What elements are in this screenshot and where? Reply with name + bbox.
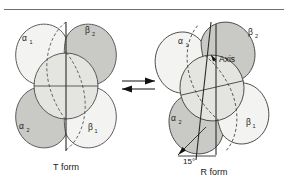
t-form-caption: T form — [53, 162, 79, 172]
r-form-caption: R form — [201, 167, 228, 177]
equilibrium-arrows — [122, 78, 155, 93]
r-alpha2-greek: α — [171, 113, 176, 123]
figure-root: α 1 β 2 α 2 β 1 T form — [0, 0, 288, 181]
forward-arrow-head — [145, 78, 155, 85]
r-beta2-greek: β — [248, 27, 253, 37]
alpha2-subscript: 2 — [27, 127, 30, 133]
axis-label: Axis — [219, 54, 235, 64]
t-form-panel: α 1 β 2 α 2 β 1 T form — [16, 22, 117, 172]
r-alpha1-greek: α — [178, 36, 183, 46]
reverse-arrow-head — [122, 86, 132, 93]
beta2-subscript: 2 — [92, 31, 95, 37]
hemoglobin-diagram: α 1 β 2 α 2 β 1 T form — [0, 0, 288, 181]
alpha1-subscript: 1 — [30, 39, 33, 45]
r-alpha2-subscript: 2 — [179, 119, 182, 125]
beta2-greek: β — [85, 25, 90, 35]
r-beta1-greek: β — [246, 117, 251, 127]
r-form-panel: Axis 15° α 1 β 2 α 2 β — [149, 14, 276, 177]
r-beta2-subscript: 2 — [255, 33, 258, 39]
r-beta1-subscript: 1 — [253, 123, 256, 129]
beta1-greek: β — [88, 122, 93, 132]
alpha2-greek: α — [19, 121, 24, 131]
angle-label: 15° — [183, 157, 195, 166]
beta1-subscript: 1 — [95, 128, 98, 134]
r-alpha1-subscript: 1 — [186, 42, 189, 48]
alpha1-greek: α — [22, 33, 27, 43]
